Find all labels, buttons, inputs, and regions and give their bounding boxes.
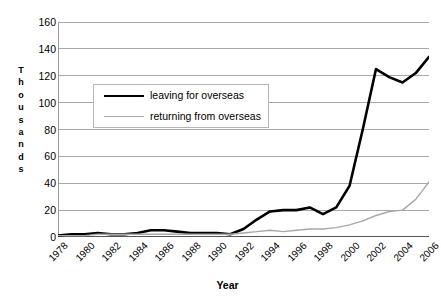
x-axis-tick-label: 2006 (410, 240, 440, 270)
y-axis-title-letter: d (14, 151, 28, 163)
y-axis-title-letter: T (14, 64, 28, 76)
gridlines (58, 22, 429, 237)
y-axis-title-letter: s (14, 114, 28, 126)
x-axis-tick-labels: 1978198019821984198619881990199219941996… (58, 240, 429, 280)
y-axis-title-letter: s (14, 163, 28, 175)
x-axis-tick-label: 1984 (119, 240, 149, 270)
x-axis-tick-label: 2004 (384, 240, 414, 270)
y-axis-title-letter: n (14, 138, 28, 150)
x-axis-tick-label: 2000 (331, 240, 361, 270)
y-axis-tick-label: 160 (30, 17, 56, 27)
x-axis-tick-label: 1992 (225, 240, 255, 270)
y-axis-tick-label: 40 (30, 178, 56, 188)
y-axis-tick-label: 80 (30, 125, 56, 135)
y-axis-title-letter: a (14, 126, 28, 138)
x-axis-title-text: Year (216, 279, 238, 291)
y-axis-title-letter: h (14, 76, 28, 88)
legend-item-leaving: leaving for overseas (94, 85, 270, 107)
x-axis-title: Year (0, 279, 437, 291)
x-axis-tick-label: 1990 (198, 240, 228, 270)
x-axis-tick-label: 1998 (304, 240, 334, 270)
x-axis-tick-label: 1988 (172, 240, 202, 270)
y-axis-tick-label: 100 (30, 98, 56, 108)
legend: leaving for overseas returning from over… (93, 84, 269, 128)
plot-svg (58, 22, 429, 237)
y-axis-title: Thousands (14, 64, 28, 176)
y-axis-tick-label: 20 (30, 205, 56, 215)
y-axis-title-letter: o (14, 89, 28, 101)
x-axis-tick-label: 1980 (66, 240, 96, 270)
x-axis-tick-label: 1994 (251, 240, 281, 270)
y-axis-tick-label: 120 (30, 71, 56, 81)
x-axis-tick-label: 2002 (357, 240, 387, 270)
x-axis-tick-label: 1996 (278, 240, 308, 270)
legend-swatch-returning-icon (104, 116, 144, 117)
legend-swatch-leaving-icon (104, 95, 144, 97)
y-axis-tick-label: 60 (30, 151, 56, 161)
plot-area (58, 22, 429, 237)
y-axis-tick-label: 140 (30, 44, 56, 54)
x-axis-tick-label: 1986 (145, 240, 175, 270)
x-axis-tick-label: 1982 (92, 240, 122, 270)
legend-label-returning: returning from overseas (150, 110, 261, 123)
legend-item-returning: returning from overseas (94, 106, 270, 128)
y-axis-title-letter: u (14, 101, 28, 113)
legend-label-leaving: leaving for overseas (150, 89, 244, 102)
y-axis-tick-label: 0 (30, 232, 56, 242)
